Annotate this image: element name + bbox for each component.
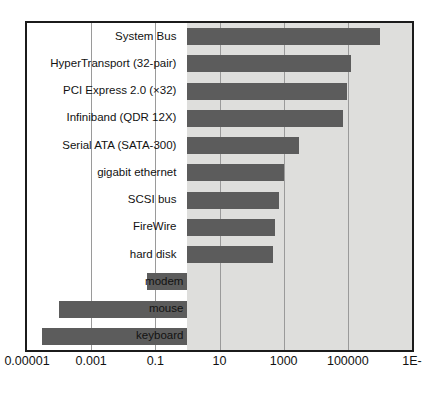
bar-row: mouse	[27, 301, 412, 318]
bar-category-label: keyboard	[136, 331, 183, 343]
bar-category-label: FireWire	[133, 222, 182, 234]
bar-category-label: modem	[145, 276, 183, 288]
x-axis-tick-label: 0.1	[147, 355, 164, 369]
x-axis-tick-labels: 0.000010.0010.11010001000001E-	[0, 355, 439, 379]
plot-area: System BusHyperTransport (32-pair)PCI Ex…	[25, 21, 414, 352]
x-axis-tick-label: 10	[213, 355, 227, 369]
bar-category-label: hard disk	[130, 249, 183, 261]
bar	[187, 246, 273, 263]
bar-row: System Bus	[27, 28, 412, 45]
bar-category-label: HyperTransport (32-pair)	[50, 58, 182, 70]
bar	[187, 28, 380, 45]
bar	[187, 164, 283, 181]
bar-row: Serial ATA (SATA-300)	[27, 137, 412, 154]
x-axis-tick-label: 0.00001	[4, 355, 49, 369]
bar	[187, 219, 274, 236]
bar-category-label: Serial ATA (SATA-300)	[62, 140, 182, 152]
bar-row: gigabit ethernet	[27, 164, 412, 181]
bar-row: hard disk	[27, 246, 412, 263]
bar	[187, 192, 278, 209]
bar-category-label: gigabit ethernet	[97, 167, 182, 179]
bar	[187, 110, 343, 127]
bar	[187, 137, 299, 154]
bar-row: FireWire	[27, 219, 412, 236]
x-axis-tick-label: 1000	[270, 355, 298, 369]
bar-row: PCI Express 2.0 (×32)	[27, 83, 412, 100]
bar-row: Infiniband (QDR 12X)	[27, 110, 412, 127]
bar-category-label: mouse	[149, 303, 184, 315]
bar-series: System BusHyperTransport (32-pair)PCI Ex…	[27, 23, 412, 350]
bar-row: HyperTransport (32-pair)	[27, 55, 412, 72]
bar-category-label: Infiniband (QDR 12X)	[66, 113, 182, 125]
bar-row: keyboard	[27, 328, 412, 345]
chart-figure: System BusHyperTransport (32-pair)PCI Ex…	[0, 0, 439, 396]
bar-category-label: System Bus	[115, 31, 182, 43]
bar	[187, 55, 351, 72]
x-axis-tick-label: 100000	[327, 355, 369, 369]
x-axis-tick-label: 1E-	[402, 355, 421, 369]
bar-category-label: SCSI bus	[128, 194, 183, 206]
x-axis-tick-label: 0.001	[76, 355, 107, 369]
bar-row: SCSI bus	[27, 192, 412, 209]
bar	[187, 83, 347, 100]
bar-row: modem	[27, 273, 412, 290]
bar-category-label: PCI Express 2.0 (×32)	[63, 85, 182, 97]
